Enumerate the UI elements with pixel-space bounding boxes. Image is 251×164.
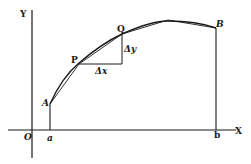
y-axis-label: Y bbox=[20, 10, 26, 19]
origin-label: O bbox=[24, 133, 32, 142]
x-axis-label: X bbox=[235, 127, 242, 136]
tick-label-a: a bbox=[47, 134, 53, 143]
delta-x-label: Δx bbox=[95, 67, 107, 76]
point-label-B: B bbox=[216, 20, 224, 29]
arc-length-diagram: Y X O a b A P Q B Δx Δy bbox=[0, 0, 251, 164]
tick-label-b: b bbox=[214, 131, 220, 140]
point-label-A: A bbox=[42, 99, 49, 108]
delta-y-label: Δy bbox=[124, 45, 136, 54]
point-label-P: P bbox=[71, 56, 78, 65]
point-label-Q: Q bbox=[117, 25, 125, 34]
